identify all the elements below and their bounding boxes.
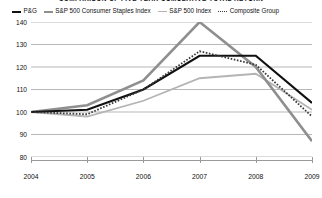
y-axis-tick-label: 80: [0, 154, 27, 161]
x-axis-labels: 200420052006200720082009: [0, 172, 322, 184]
x-axis-tick: [31, 157, 32, 163]
y-axis-tick-label: 90: [0, 131, 27, 138]
legend-label: P&G: [24, 7, 37, 14]
x-axis-ticks: [31, 157, 312, 164]
plot-svg: [31, 22, 312, 157]
x-axis-tick-label: 2006: [123, 172, 163, 181]
line-swatch-solid-lightgray-icon: [158, 8, 167, 14]
legend-label: S&P 500 Index: [169, 7, 211, 14]
legend-item-composite-group[interactable]: Composite Group: [218, 7, 279, 14]
x-axis-tick-label: 2009: [292, 172, 322, 181]
legend-item-pg[interactable]: P&G: [12, 7, 37, 14]
cumulative-total-return-chart: COMPARISON OF FIVE YEAR CUMULATIVE TOTAL…: [0, 0, 322, 198]
legend-item-sp500-consumer-staples[interactable]: S&P 500 Consumer Staples Index: [44, 7, 151, 14]
x-axis-tick: [200, 157, 201, 163]
x-axis-tick-label: 2007: [180, 172, 220, 181]
series-line: [31, 22, 312, 141]
x-axis-tick: [256, 157, 257, 163]
x-axis-tick: [312, 157, 313, 163]
y-axis-tick-label: 120: [0, 64, 27, 71]
legend-label: Composite Group: [230, 7, 279, 14]
y-axis-tick-label: 110: [0, 86, 27, 93]
legend-label: S&P 500 Consumer Staples Index: [55, 7, 150, 14]
plot-area: [31, 22, 312, 157]
x-axis-tick-label: 2008: [236, 172, 276, 181]
y-axis-tick-label: 100: [0, 109, 27, 116]
line-swatch-dotted-icon: [218, 8, 227, 14]
x-axis-tick-label: 2005: [67, 172, 107, 181]
y-axis-tick-label: 130: [0, 41, 27, 48]
page-title: COMPARISON OF FIVE YEAR CUMULATIVE TOTAL…: [0, 0, 322, 4]
y-axis-tick-label: 140: [0, 19, 27, 26]
line-swatch-solid-black-icon: [12, 8, 21, 14]
chart-legend: P&G S&P 500 Consumer Staples Index S&P 5…: [12, 5, 312, 16]
line-swatch-solid-gray-icon: [44, 8, 53, 14]
y-axis-labels: 1401301201101009080: [0, 22, 27, 157]
x-axis-tick-label: 2004: [11, 172, 51, 181]
x-axis-tick: [143, 157, 144, 163]
x-axis-tick: [87, 157, 88, 163]
legend-item-sp500-index[interactable]: S&P 500 Index: [158, 7, 211, 14]
